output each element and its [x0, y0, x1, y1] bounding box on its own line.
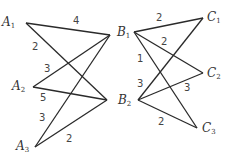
- node-subscript: 1: [126, 32, 130, 40]
- edge-weight: 2: [161, 37, 167, 47]
- edge-b1-c1: [134, 18, 203, 32]
- node-label-c3: C3: [202, 122, 216, 136]
- edge-weight: 5: [40, 93, 46, 103]
- edge-weight: 4: [73, 16, 79, 26]
- node-name: A: [16, 139, 25, 153]
- node-label-b2: B2: [118, 94, 131, 108]
- node-name: A: [2, 15, 11, 29]
- node-label-a2: A2: [12, 80, 25, 94]
- edge-a1-b1: [26, 23, 110, 35]
- node-name: C: [207, 10, 216, 24]
- edge-weight: 2: [158, 117, 164, 127]
- edge-weight: 3: [39, 113, 45, 123]
- node-name: C: [202, 121, 211, 135]
- node-subscript: 2: [127, 100, 131, 108]
- node-label-a1: A1: [2, 16, 15, 30]
- edge-weight: 3: [137, 79, 143, 89]
- edge-weight: 2: [156, 13, 162, 23]
- edge-weight: 1: [137, 54, 143, 64]
- graph-edges: [0, 0, 230, 157]
- node-subscript: 3: [211, 128, 215, 136]
- node-label-a3: A3: [16, 140, 29, 154]
- node-name: C: [207, 66, 216, 80]
- node-subscript: 1: [216, 17, 220, 25]
- edge-a3-b1: [35, 35, 110, 147]
- node-name: B: [118, 93, 127, 107]
- edge-b2-c2: [138, 73, 203, 100]
- node-label-c2: C2: [207, 67, 221, 81]
- node-label-b1: B1: [117, 26, 130, 40]
- edge-weight: 3: [44, 64, 50, 74]
- edge-weight: 2: [66, 134, 72, 144]
- node-subscript: 1: [11, 22, 15, 30]
- node-label-c1: C1: [207, 11, 221, 25]
- node-subscript: 2: [21, 86, 25, 94]
- edge-weight: 2: [32, 42, 38, 52]
- node-subscript: 3: [25, 146, 29, 154]
- node-name: B: [117, 25, 126, 39]
- node-subscript: 2: [216, 73, 220, 81]
- edge-b1-c2: [134, 32, 203, 73]
- edge-a2-b1: [33, 35, 110, 87]
- node-name: A: [12, 79, 21, 93]
- edge-weight: 3: [184, 83, 190, 93]
